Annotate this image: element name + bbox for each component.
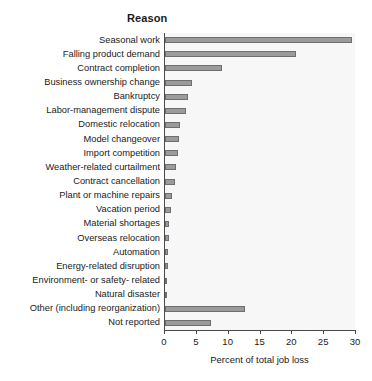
bar — [165, 263, 168, 269]
category-label: Contract completion — [0, 63, 160, 73]
bar — [165, 80, 192, 86]
x-axis-title: Percent of total job loss — [164, 354, 355, 365]
category-label: Material shortages — [0, 218, 160, 228]
bar-chart: Reason Seasonal workFalling product dema… — [0, 0, 372, 381]
x-tick-label: 15 — [248, 336, 272, 347]
category-label: Labor-management dispute — [0, 105, 160, 115]
x-tick-mark — [260, 330, 261, 334]
chart-title: Reason — [127, 12, 167, 24]
bar — [165, 164, 176, 170]
bar — [165, 221, 169, 227]
category-label: Other (including reorganization) — [0, 303, 160, 313]
category-label: Plant or machine repairs — [0, 190, 160, 200]
bar — [165, 207, 171, 213]
x-tick-label: 30 — [343, 336, 367, 347]
bar — [165, 108, 186, 114]
bar — [165, 249, 168, 255]
bar — [165, 65, 222, 71]
bar — [165, 136, 179, 142]
x-tick-mark — [196, 330, 197, 334]
category-label: Natural disaster — [0, 289, 160, 299]
bar — [165, 51, 296, 57]
category-label: Overseas relocation — [0, 233, 160, 243]
bar — [165, 235, 169, 241]
bar — [165, 292, 167, 298]
bar — [165, 37, 352, 43]
category-label: Not reported — [0, 317, 160, 327]
y-axis-category-labels: Seasonal workFalling product demandContr… — [0, 33, 160, 330]
x-tick-label: 0 — [152, 336, 176, 347]
category-label: Domestic relocation — [0, 119, 160, 129]
category-label: Seasonal work — [0, 35, 160, 45]
x-tick-mark — [291, 330, 292, 334]
category-label: Vacation period — [0, 204, 160, 214]
category-label: Falling product demand — [0, 49, 160, 59]
category-label: Import competition — [0, 148, 160, 158]
x-tick-mark — [355, 330, 356, 334]
x-tick-label: 10 — [216, 336, 240, 347]
category-label: Energy-related disruption — [0, 261, 160, 271]
bar — [165, 278, 167, 284]
x-tick-label: 5 — [184, 336, 208, 347]
x-tick-mark — [323, 330, 324, 334]
bar — [165, 306, 245, 312]
x-tick-mark — [228, 330, 229, 334]
bar — [165, 150, 178, 156]
category-label: Weather-related curtailment — [0, 162, 160, 172]
category-label: Environment- or safety- related — [0, 275, 160, 285]
category-label: Automation — [0, 247, 160, 257]
x-tick-label: 20 — [279, 336, 303, 347]
bar — [165, 179, 175, 185]
x-tick-label: 25 — [311, 336, 335, 347]
bars-layer — [165, 33, 355, 330]
category-label: Model changeover — [0, 134, 160, 144]
category-label: Bankruptcy — [0, 91, 160, 101]
category-label: Contract cancellation — [0, 176, 160, 186]
bar — [165, 122, 180, 128]
x-tick-mark — [164, 330, 165, 334]
category-label: Business ownership change — [0, 77, 160, 87]
bar — [165, 193, 172, 199]
bar — [165, 94, 188, 100]
bar — [165, 320, 211, 326]
